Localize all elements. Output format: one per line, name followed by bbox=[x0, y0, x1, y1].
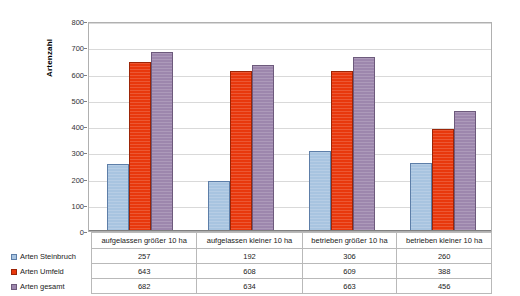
y-axis-tick-labels: 8007006005004003002001000 bbox=[58, 22, 84, 232]
y-tick-mark-800 bbox=[84, 22, 87, 23]
y-tick-mark-400 bbox=[84, 127, 87, 128]
y-tick-label-700: 700 bbox=[71, 44, 84, 53]
bar[interactable] bbox=[410, 163, 432, 231]
y-tick-mark-700 bbox=[84, 48, 87, 49]
table-cell: 260 bbox=[397, 249, 492, 264]
bar[interactable] bbox=[432, 129, 454, 231]
data-table: aufgelassen größer 10 haaufgelassen klei… bbox=[8, 232, 492, 294]
legend-label: Arten gesamt bbox=[20, 282, 65, 291]
bar-group bbox=[291, 23, 392, 231]
bar[interactable] bbox=[107, 164, 129, 231]
table-cell: 663 bbox=[302, 279, 397, 294]
legend-item-3[interactable]: Arten gesamt bbox=[8, 279, 92, 294]
y-tick-label-500: 500 bbox=[71, 96, 84, 105]
legend-swatch-icon bbox=[11, 284, 17, 290]
table-cell: 634 bbox=[197, 279, 302, 294]
bar-set bbox=[392, 23, 493, 231]
table-category-header: aufgelassen größer 10 ha bbox=[92, 233, 197, 249]
legend-item-2[interactable]: Arten Umfeld bbox=[8, 264, 92, 279]
table-cell: 257 bbox=[92, 249, 197, 264]
y-tick-label-200: 200 bbox=[71, 175, 84, 184]
bar[interactable] bbox=[151, 52, 173, 231]
bar-set bbox=[190, 23, 291, 231]
y-tick-mark-600 bbox=[84, 75, 87, 76]
legend-label: Arten Umfeld bbox=[20, 267, 64, 276]
legend-item-1[interactable]: Arten Steinbruch bbox=[8, 249, 92, 264]
bar[interactable] bbox=[331, 71, 353, 231]
bar-set bbox=[291, 23, 392, 231]
y-axis-title: Artenzahl bbox=[40, 18, 58, 98]
bar-groups bbox=[89, 23, 491, 231]
table-cell: 388 bbox=[397, 264, 492, 279]
y-tick-mark-100 bbox=[84, 206, 87, 207]
bar[interactable] bbox=[309, 151, 331, 231]
table-cell: 609 bbox=[302, 264, 397, 279]
table-row: Arten gesamt682634663456 bbox=[8, 279, 492, 294]
y-tick-mark-300 bbox=[84, 153, 87, 154]
chart-container: Artenzahl 8007006005004003002001000 aufg… bbox=[0, 0, 520, 296]
legend-swatch-icon bbox=[11, 269, 17, 275]
y-tick-label-800: 800 bbox=[71, 18, 84, 27]
y-tick-label-100: 100 bbox=[71, 201, 84, 210]
bar[interactable] bbox=[252, 65, 274, 231]
bar-group bbox=[89, 23, 190, 231]
table-cell: 456 bbox=[397, 279, 492, 294]
data-table-body: aufgelassen größer 10 haaufgelassen klei… bbox=[8, 233, 492, 294]
bar[interactable] bbox=[454, 111, 476, 231]
table-cell: 306 bbox=[302, 249, 397, 264]
table-category-header: aufgelassen kleiner 10 ha bbox=[197, 233, 302, 249]
bar[interactable] bbox=[129, 62, 151, 231]
table-cell: 643 bbox=[92, 264, 197, 279]
table-category-row: aufgelassen größer 10 haaufgelassen klei… bbox=[8, 233, 492, 249]
bar[interactable] bbox=[208, 181, 230, 231]
table-row: Arten Umfeld643608609388 bbox=[8, 264, 492, 279]
bar[interactable] bbox=[353, 57, 375, 231]
bar-group bbox=[392, 23, 493, 231]
y-tick-mark-500 bbox=[84, 101, 87, 102]
table-cell: 608 bbox=[197, 264, 302, 279]
plot-area bbox=[88, 22, 492, 232]
y-tick-mark-200 bbox=[84, 180, 87, 181]
table-cell: 192 bbox=[197, 249, 302, 264]
legend-label: Arten Steinbruch bbox=[20, 252, 76, 261]
table-corner-cell bbox=[8, 233, 92, 249]
x-axis-line bbox=[89, 230, 491, 231]
y-tick-label-400: 400 bbox=[71, 123, 84, 132]
table-category-header: betrieben größer 10 ha bbox=[302, 233, 397, 249]
y-tick-label-600: 600 bbox=[71, 70, 84, 79]
y-tick-mark-0 bbox=[84, 232, 87, 233]
table-cell: 682 bbox=[92, 279, 197, 294]
legend-swatch-icon bbox=[11, 254, 17, 260]
table-category-header: betrieben kleiner 10 ha bbox=[397, 233, 492, 249]
bar-group bbox=[190, 23, 291, 231]
table-row: Arten Steinbruch257192306260 bbox=[8, 249, 492, 264]
y-tick-label-300: 300 bbox=[71, 149, 84, 158]
bar[interactable] bbox=[230, 71, 252, 231]
bar-set bbox=[89, 23, 190, 231]
